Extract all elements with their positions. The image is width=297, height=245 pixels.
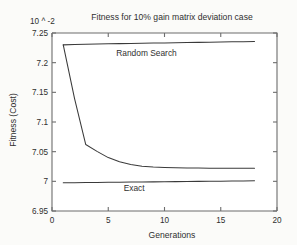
x-tick-label: 15 bbox=[216, 216, 226, 225]
fitness-line-chart: 10 ^ -2 Fitness for 10% gain matrix devi… bbox=[0, 0, 297, 245]
y-tick-label: 7.25 bbox=[32, 29, 48, 38]
annotation-random-search: Random Search bbox=[116, 48, 177, 58]
y-axis-title: Fitness (Cost) bbox=[8, 93, 18, 147]
figure-container: 10 ^ -2 Fitness for 10% gain matrix devi… bbox=[0, 0, 297, 245]
y-tick-label: 7.05 bbox=[32, 148, 48, 157]
plot-area-background bbox=[52, 33, 277, 211]
x-axis-title: Generations bbox=[149, 230, 196, 240]
x-tick-label: 10 bbox=[160, 216, 170, 225]
y-tick-label: 7.15 bbox=[32, 88, 48, 97]
x-tick-label: 5 bbox=[106, 216, 111, 225]
chart-title: Fitness for 10% gain matrix deviation ca… bbox=[91, 12, 253, 22]
y-tick-label: 7.2 bbox=[37, 59, 49, 68]
y-tick-label: 6.95 bbox=[32, 207, 48, 216]
y-tick-label: 7 bbox=[43, 177, 48, 186]
y-axis-exponent-label: 10 ^ -2 bbox=[30, 17, 55, 26]
y-tick-label: 7.1 bbox=[37, 118, 49, 127]
x-tick-label: 0 bbox=[50, 216, 55, 225]
annotation-exact: Exact bbox=[124, 183, 146, 193]
x-tick-label: 20 bbox=[272, 216, 282, 225]
